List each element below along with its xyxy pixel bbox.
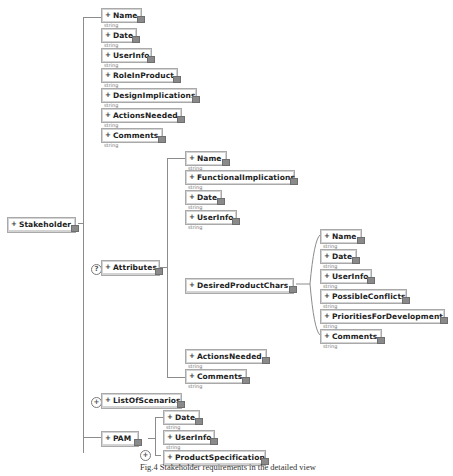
node-listofscenarios[interactable]: +ListOfScenarios xyxy=(101,393,182,409)
node-userinfo[interactable]: +UserInfo string xyxy=(101,48,152,63)
element-icon: + xyxy=(167,454,173,461)
node-designimplications[interactable]: +DesignImplications string xyxy=(101,88,197,103)
element-icon: + xyxy=(189,214,195,221)
element-icon: + xyxy=(11,221,17,228)
type-icon xyxy=(147,56,155,63)
node-name[interactable]: +Name string xyxy=(101,8,142,23)
type-icon xyxy=(262,357,270,364)
node-pam-userinfo[interactable]: +UserInfo string xyxy=(163,430,215,445)
node-stakeholder[interactable]: +Stakeholder xyxy=(7,217,76,233)
type-icon xyxy=(217,198,225,205)
type-icon xyxy=(173,76,181,83)
node-type: string xyxy=(102,141,162,149)
node-attr-name[interactable]: +Name string xyxy=(185,151,227,166)
element-icon: + xyxy=(167,434,173,441)
node-label: DesiredProductChars xyxy=(197,282,289,290)
element-icon: + xyxy=(324,313,330,320)
node-roleinproduct[interactable]: +RoleInProduct string xyxy=(101,68,178,83)
node-dpc-date[interactable]: +Date string xyxy=(320,249,357,264)
node-dpc-name[interactable]: +Name string xyxy=(320,229,362,244)
node-attr-actionsneeded[interactable]: +ActionsNeeded string xyxy=(185,349,267,364)
node-label: PossibleConflicts xyxy=(332,293,406,301)
type-icon xyxy=(367,277,375,284)
element-icon: + xyxy=(189,174,195,181)
element-icon: + xyxy=(324,233,330,240)
sequence-icon xyxy=(289,286,297,293)
sequence-icon xyxy=(155,268,163,275)
node-label: UserInfo xyxy=(113,52,150,60)
type-icon xyxy=(177,116,185,123)
node-pam[interactable]: +PAM xyxy=(101,431,139,447)
element-icon: + xyxy=(105,397,111,404)
node-desiredproductchars[interactable]: +DesiredProductChars xyxy=(185,278,294,294)
node-label: Date xyxy=(197,194,217,202)
node-pam-date[interactable]: +Date string xyxy=(163,410,200,425)
element-icon: + xyxy=(189,373,195,380)
node-label: Name xyxy=(197,155,222,163)
type-icon xyxy=(137,16,145,23)
element-icon: + xyxy=(189,155,195,162)
type-icon xyxy=(377,337,385,344)
node-comments[interactable]: +Comments string xyxy=(101,128,163,143)
node-dpc-prioritiesfordevelopment[interactable]: +PrioritiesForDevelopment string xyxy=(320,309,445,324)
expand-icon[interactable]: + xyxy=(140,450,151,461)
type-icon xyxy=(158,136,166,143)
type-icon xyxy=(357,237,365,244)
node-type: string xyxy=(186,223,236,231)
node-dpc-possibleconflicts[interactable]: +PossibleConflicts string xyxy=(320,289,407,304)
element-icon: + xyxy=(105,52,111,59)
element-icon: + xyxy=(167,414,173,421)
node-label: PrioritiesForDevelopment xyxy=(332,313,443,321)
type-icon xyxy=(210,438,218,445)
node-attr-userinfo[interactable]: +UserInfo string xyxy=(185,210,237,225)
node-attr-functionalimplications[interactable]: +FunctionalImplications string xyxy=(185,170,295,185)
element-icon: + xyxy=(324,273,330,280)
node-label: UserInfo xyxy=(332,273,369,281)
node-label: Date xyxy=(175,414,195,422)
type-icon xyxy=(195,418,203,425)
type-icon xyxy=(232,218,240,225)
sequence-icon xyxy=(134,439,142,446)
node-attr-comments[interactable]: +Comments string xyxy=(185,369,247,384)
node-label: ProductSpecification xyxy=(175,454,265,462)
element-icon: + xyxy=(105,92,111,99)
node-label: PAM xyxy=(113,435,131,443)
node-type: string xyxy=(186,382,246,390)
sequence-icon xyxy=(177,401,185,408)
type-icon xyxy=(192,96,200,103)
figure-caption: Fig.4 Stakeholder requirements in the de… xyxy=(140,462,316,472)
node-date[interactable]: +Date string xyxy=(101,28,137,43)
node-label: Comments xyxy=(113,132,159,140)
element-icon: + xyxy=(105,72,111,79)
node-label: ActionsNeeded xyxy=(113,112,178,120)
node-actionsneeded[interactable]: +ActionsNeeded string xyxy=(101,108,182,123)
type-icon xyxy=(290,178,298,185)
node-attributes[interactable]: +Attributes xyxy=(101,260,160,276)
element-icon: + xyxy=(189,282,195,289)
node-label: Date xyxy=(113,32,133,40)
node-label: Attributes xyxy=(113,264,157,272)
element-icon: + xyxy=(324,253,330,260)
node-label: Stakeholder xyxy=(19,221,71,229)
node-label: ListOfScenarios xyxy=(113,397,181,405)
node-label: Name xyxy=(113,12,138,20)
node-type: string xyxy=(321,342,381,350)
element-icon: + xyxy=(105,132,111,139)
node-attr-date[interactable]: +Date string xyxy=(185,190,222,205)
element-icon: + xyxy=(105,112,111,119)
node-dpc-comments[interactable]: +Comments string xyxy=(320,329,382,344)
type-icon xyxy=(222,159,230,166)
element-icon: + xyxy=(189,353,195,360)
element-icon: + xyxy=(105,32,111,39)
node-dpc-userinfo[interactable]: +UserInfo string xyxy=(320,269,372,284)
node-label: Date xyxy=(332,253,352,261)
element-icon: + xyxy=(324,293,330,300)
element-icon: + xyxy=(105,435,111,442)
element-icon: + xyxy=(324,333,330,340)
node-label: UserInfo xyxy=(197,214,234,222)
node-label: Comments xyxy=(332,333,378,341)
node-label: RoleInProduct xyxy=(113,72,174,80)
type-icon xyxy=(440,317,448,324)
element-icon: + xyxy=(105,12,111,19)
element-icon: + xyxy=(189,194,195,201)
